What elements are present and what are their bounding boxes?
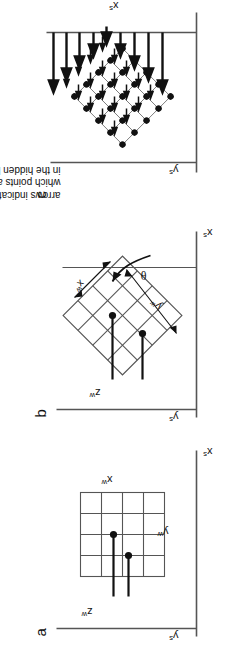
panel-a: a (0, 437, 243, 656)
figure-canvas: a (0, 0, 243, 656)
panel-b-theta-label: θ (140, 266, 146, 281)
panel-b-drawing (0, 218, 243, 437)
panel-a-point-2 (124, 551, 131, 558)
panel-a-grid (80, 492, 164, 576)
panel-b-yw-extent-arrow (124, 269, 176, 333)
scan-arrow-2 (61, 32, 70, 80)
panel-a-zw-label: zw (81, 605, 92, 616)
panel-b-ys-label: ys (169, 410, 178, 421)
panel-b-xs-label: xs (203, 226, 212, 237)
panel-a-leaders (113, 534, 128, 596)
panel-b: b (0, 218, 243, 437)
panel-c-ys-label: ys (169, 163, 178, 174)
panel-a-xs-label: xs (203, 445, 212, 456)
panel-c-drawing (0, 0, 243, 218)
panel-a-ys-label: ys (169, 629, 178, 640)
figure-frame: a (0, 0, 243, 656)
scan-arrow-6 (115, 32, 124, 56)
panel-a-drawing (0, 437, 243, 656)
panel-b-grid (63, 256, 182, 375)
scan-arrow-3 (74, 32, 83, 68)
panel-a-xw-label: xw (101, 473, 112, 484)
panel-a-point-1 (109, 530, 116, 537)
panel-c: c arrows indicate order in which points … (0, 0, 243, 218)
panel-a-yw-label: yw (157, 525, 168, 536)
scan-arrow-8 (143, 32, 152, 80)
panel-c-lattice-vertices (69, 43, 174, 148)
panel-c-lattice (69, 43, 174, 148)
panel-c-xs-label: xs (109, 0, 118, 10)
scan-arrow-1 (48, 32, 57, 92)
scan-arrow-7 (129, 32, 138, 68)
scan-arrow-9 (157, 32, 166, 92)
panel-b-zw-label: zw (89, 386, 100, 397)
panel-b-point-2 (138, 329, 145, 336)
panel-b-point-1 (108, 311, 115, 318)
